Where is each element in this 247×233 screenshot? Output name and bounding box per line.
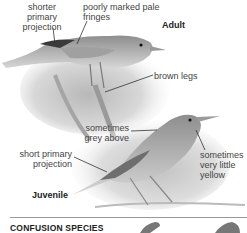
section-divider	[10, 217, 247, 218]
confusion-species-thumbnails	[140, 222, 240, 233]
confusion-species-title: CONFUSION SPECIES	[10, 223, 104, 233]
callout-poorly-marked-pale-fringes: poorly marked pale fringes	[83, 2, 178, 22]
adult-tag: Adult	[162, 20, 185, 30]
juvenile-tag: Juvenile	[32, 190, 68, 200]
callout-brown-legs: brown legs	[154, 71, 198, 81]
callout-sometimes-grey-above: sometimes grey above	[72, 123, 129, 143]
callout-sometimes-very-little-yellow: sometimes very little yellow	[200, 150, 247, 180]
callout-short-primary-projection: short primary projection	[10, 149, 72, 169]
callout-shorter-primary-projection: shorter primary projection	[12, 2, 72, 32]
